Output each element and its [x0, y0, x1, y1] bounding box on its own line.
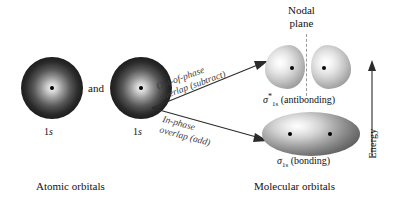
ao2-label-italic: s	[138, 126, 142, 137]
nucleus-dot	[139, 86, 143, 90]
bonding-orbital	[262, 112, 360, 156]
atomic-orbital-2-label: 1s	[133, 126, 142, 137]
nucleus-dot	[50, 86, 54, 90]
atomic-orbitals-caption: Atomic orbitals	[36, 180, 105, 192]
antibonding-subscript: 1s	[272, 100, 278, 108]
bonding-label: σ1s (bonding)	[277, 155, 330, 169]
nucleus-dot	[290, 66, 294, 70]
conjunction-and: and	[88, 82, 104, 94]
energy-axis-label: Energy	[367, 116, 378, 172]
bonding-suffix: (bonding)	[291, 155, 330, 166]
ao1-label-italic: s	[49, 126, 53, 137]
atomic-orbital-1-label: 1s	[44, 126, 53, 137]
nucleus-dot	[328, 132, 332, 136]
antibonding-label: σ*1s (antibonding)	[263, 92, 335, 108]
nodal-plane-line	[306, 34, 307, 96]
nodal-plane-line2: plane	[288, 17, 315, 30]
energy-axis: Energy	[360, 60, 384, 170]
antibonding-lobe-right	[311, 45, 351, 89]
orbital-diagram: 1s and 1s Atomic orbitals Out-of-phase o…	[0, 0, 393, 208]
nodal-plane-line1: Nodal	[288, 4, 315, 17]
nucleus-dot	[322, 66, 326, 70]
bonding-subscript: 1s	[282, 161, 288, 169]
antibonding-suffix: (antibonding)	[281, 94, 335, 105]
antibonding-lobe-left	[265, 45, 305, 89]
atomic-orbital-1	[21, 57, 83, 119]
nodal-plane-label: Nodal plane	[288, 4, 315, 30]
molecular-orbitals-caption: Molecular orbitals	[254, 180, 335, 192]
nucleus-dot	[288, 132, 292, 136]
